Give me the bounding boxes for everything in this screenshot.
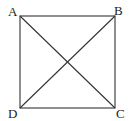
vertex-label-c: C [116, 106, 125, 121]
square-diagram: A B C D [0, 0, 131, 121]
vertex-label-d: D [8, 106, 17, 121]
vertex-label-b: B [114, 3, 123, 18]
vertex-label-a: A [8, 4, 18, 19]
